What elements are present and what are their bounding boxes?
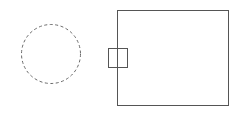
diagram-canvas <box>0 0 238 114</box>
main-box <box>118 11 229 106</box>
dashed-circle <box>22 25 81 84</box>
